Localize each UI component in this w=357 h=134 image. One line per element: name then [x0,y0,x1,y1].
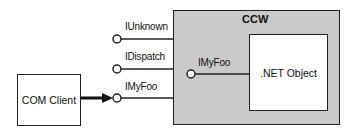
connectors [0,0,357,134]
inner-imyfoo-label: IMyFoo [198,57,230,68]
inner-imyfoo-lollipop-icon [187,70,195,78]
client-arrow-head-icon [102,93,113,103]
iunknown-label: IUnknown [125,21,168,32]
idispatch-label: IDispatch [125,51,165,62]
idispatch-lollipop-icon [113,65,121,73]
iunknown-lollipop-icon [113,35,121,43]
imyfoo-lollipop-icon [113,94,121,102]
imyfoo-label: IMyFoo [125,81,157,92]
